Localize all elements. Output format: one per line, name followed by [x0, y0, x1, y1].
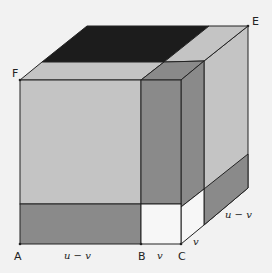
top-front-light-face: [20, 62, 164, 80]
front-main-face: [20, 80, 141, 204]
length-AB: u − v: [64, 250, 91, 261]
label-F: F: [12, 67, 18, 80]
length-BC: v: [157, 250, 163, 261]
cube-diagram: F E A B C u − v v v u − v: [0, 0, 272, 273]
front-right-gray-face: [141, 80, 181, 204]
label-C: C: [178, 250, 186, 263]
label-A: A: [14, 250, 22, 263]
length-depth-v: v: [193, 236, 199, 247]
length-depth-u-minus-v: u − v: [225, 209, 252, 220]
label-E: E: [252, 15, 259, 28]
front-bottom-white-square: [141, 204, 181, 244]
middle-side-face: [181, 61, 204, 207]
front-bottom-band: [20, 204, 141, 244]
label-B: B: [138, 250, 146, 263]
